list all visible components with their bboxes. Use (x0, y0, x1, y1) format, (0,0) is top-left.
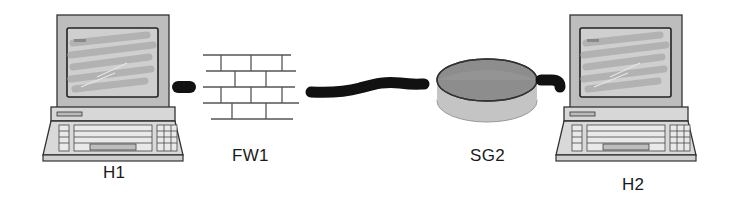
host-h1-computer-icon (43, 15, 183, 161)
label-h2: H2 (622, 175, 644, 195)
host-h2-computer-icon (556, 15, 696, 161)
cable-fw1-sg2 (311, 82, 424, 92)
cable-h1-fw1 (172, 81, 196, 93)
label-fw1: FW1 (232, 146, 269, 166)
label-sg2: SG2 (470, 146, 505, 166)
cable-sg2-h2 (541, 80, 560, 87)
label-h1: H1 (103, 163, 125, 183)
firewall-fw1-icon (203, 55, 299, 119)
security-gateway-sg2-icon (437, 59, 537, 122)
